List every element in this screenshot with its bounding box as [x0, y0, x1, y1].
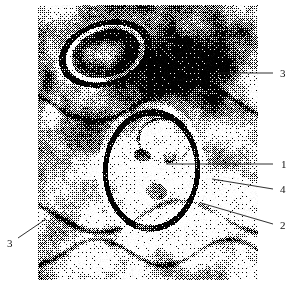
micrograph-canvas [38, 5, 258, 280]
micrograph-image [38, 5, 258, 280]
callout-label-3-top: 3 [280, 68, 286, 79]
figure-root: 3 1 4 2 3 [0, 0, 295, 288]
callout-label-4: 4 [280, 184, 286, 195]
callout-label-2: 2 [280, 220, 286, 231]
callout-label-1: 1 [281, 159, 287, 170]
callout-label-3-bottom: 3 [7, 238, 13, 249]
